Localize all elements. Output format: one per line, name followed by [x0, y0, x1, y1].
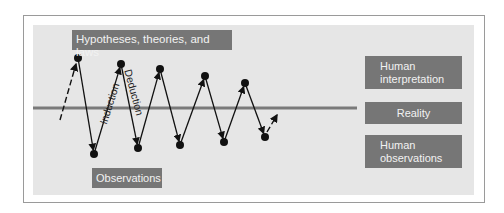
- dashed-entry-arrow: [60, 64, 76, 120]
- legend-human-interpretation: Human interpretation: [365, 56, 462, 89]
- legend-text-line: interpretation: [380, 73, 462, 86]
- legend-text-line: Human: [380, 139, 462, 152]
- observations-label: Observations: [92, 168, 162, 188]
- legend-reality: Reality: [365, 102, 462, 124]
- dashed-exit-arrow: [267, 115, 277, 132]
- legend-text-line: observations: [380, 152, 462, 165]
- legend-text-line: Human: [380, 60, 462, 73]
- hypotheses-label: Hypotheses, theories, and laws: [72, 30, 232, 50]
- legend-human-observations: Human observations: [365, 135, 462, 168]
